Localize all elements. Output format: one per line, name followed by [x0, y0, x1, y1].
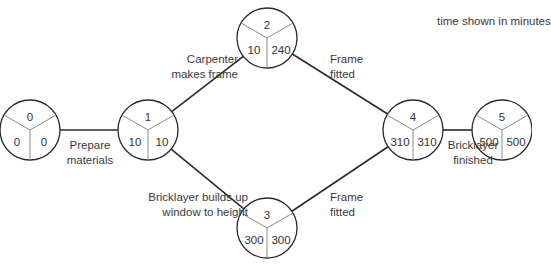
earliest-start-time: 10	[129, 136, 142, 148]
time-units-note: time shown in minutes	[437, 14, 551, 29]
latest-finish-time: 500	[506, 136, 525, 148]
activity-label-carpenter-makes-frame: Carpenter makes frame	[150, 52, 238, 82]
activity-label-bricklayer-builds-up: Bricklayer builds up window to height	[130, 190, 248, 220]
activity-label-frame-fitted-lower: Frame fitted	[330, 190, 390, 220]
event-node-4: 4310310	[383, 100, 443, 160]
event-node-0: 000	[0, 100, 60, 160]
activity-label-prepare-materials: Prepare materials	[60, 138, 120, 168]
event-nodes: 00011010210240330030043103105500500	[0, 8, 532, 258]
latest-finish-time: 0	[41, 136, 47, 148]
earliest-start-time: 310	[390, 136, 409, 148]
latest-finish-time: 300	[271, 234, 290, 246]
latest-finish-time: 240	[271, 44, 290, 56]
node-number: 3	[264, 209, 270, 221]
latest-finish-time: 310	[417, 136, 436, 148]
node-number: 4	[410, 111, 417, 123]
activity-label-bricklayer-finished: Bricklayer finished	[443, 138, 503, 168]
earliest-start-time: 0	[14, 136, 20, 148]
node-number: 0	[27, 111, 33, 123]
node-number: 1	[145, 111, 151, 123]
node-number: 2	[264, 19, 270, 31]
latest-finish-time: 10	[156, 136, 169, 148]
activity-label-frame-fitted-upper: Frame fitted	[330, 52, 390, 82]
earliest-start-time: 300	[244, 234, 263, 246]
node-number: 5	[499, 111, 505, 123]
event-node-1: 11010	[118, 100, 178, 160]
event-node-2: 210240	[237, 8, 297, 68]
earliest-start-time: 10	[248, 44, 261, 56]
